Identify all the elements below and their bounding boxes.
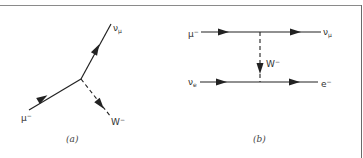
bottom-right-arrow-icon <box>289 79 300 86</box>
neutrino-arrow-icon <box>91 43 102 56</box>
caption-b: (b) <box>253 134 266 144</box>
label-a-neutrino-mu: νμ <box>113 23 122 36</box>
label-a-w-boson: W− <box>111 115 125 127</box>
label-b-neutrino-e: νe <box>188 77 197 90</box>
label-b-electron: e− <box>321 77 332 89</box>
label-b-w-boson: W− <box>266 57 280 69</box>
exchange-arrow-icon <box>257 63 264 74</box>
label-a-muon: μ− <box>21 111 32 123</box>
top-right-arrow-icon <box>290 29 301 36</box>
panel-b-diagram <box>200 29 321 86</box>
label-b-neutrino-mu: νμ <box>323 27 332 40</box>
panel-a-diagram <box>29 24 111 117</box>
muon-line <box>29 79 81 110</box>
caption-a: (a) <box>66 134 78 144</box>
bottom-left-arrow-icon <box>216 79 227 86</box>
w-boson-line <box>81 79 111 117</box>
feynman-diagram-figure: νμ μ− W− (a) μ− νμ W− νe e− (b) <box>0 0 363 158</box>
top-left-arrow-icon <box>218 29 229 36</box>
diagram-lines <box>0 0 363 158</box>
label-b-muon: μ− <box>188 27 199 39</box>
